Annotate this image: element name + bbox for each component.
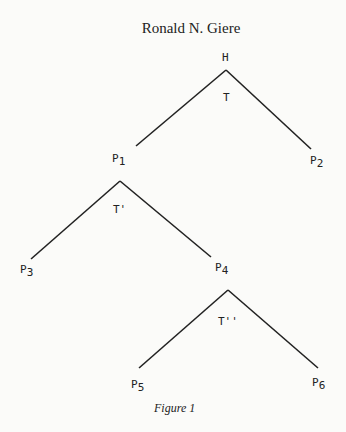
node-p5: P5 <box>131 379 144 390</box>
node-p3: P3 <box>20 264 33 275</box>
node-p3-label: P <box>20 263 27 276</box>
node-p2: P2 <box>310 155 323 166</box>
node-p6: P6 <box>312 377 325 388</box>
node-p1-sub: 1 <box>119 155 126 168</box>
node-p2-label: P <box>310 154 317 167</box>
edge-p4-p5 <box>139 290 228 368</box>
node-p4: P4 <box>215 262 228 273</box>
theory-t: T <box>223 92 230 103</box>
tree-edges <box>0 0 346 432</box>
figure-caption: Figure 1 <box>154 401 195 416</box>
node-h: H <box>222 52 229 63</box>
node-p1: P1 <box>112 153 125 164</box>
edge-h-p2 <box>226 70 311 149</box>
theory-t-double-prime: T'' <box>218 316 238 327</box>
node-p2-sub: 2 <box>317 157 324 170</box>
node-p4-sub: 4 <box>222 264 229 277</box>
node-p5-label: P <box>131 378 138 391</box>
edge-p1-p3 <box>31 181 120 259</box>
edge-h-p1 <box>136 70 226 146</box>
node-p6-sub: 6 <box>319 379 326 392</box>
edge-p1-p4 <box>120 181 211 257</box>
node-p6-label: P <box>312 376 319 389</box>
node-p5-sub: 5 <box>138 381 145 394</box>
node-p4-label: P <box>215 261 222 274</box>
node-p1-label: P <box>112 152 119 165</box>
edge-p4-p6 <box>228 290 318 368</box>
node-p3-sub: 3 <box>27 266 34 279</box>
theory-t-prime: T' <box>113 204 126 215</box>
